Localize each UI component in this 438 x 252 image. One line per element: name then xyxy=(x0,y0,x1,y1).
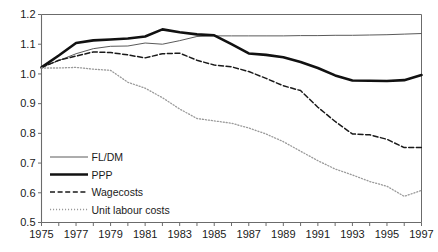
x-tick-label: 1983 xyxy=(167,228,191,240)
x-tick-label: 1985 xyxy=(202,228,226,240)
legend-label-fl-dm: FL/DM xyxy=(92,151,124,163)
series-line-wagecosts xyxy=(42,52,422,148)
x-tick-label: 1991 xyxy=(306,228,330,240)
x-tick-label: 1981 xyxy=(133,228,157,240)
x-tick-label: 1995 xyxy=(375,228,399,240)
x-tick-label: 1977 xyxy=(64,228,88,240)
y-tick-label: 1.2 xyxy=(20,8,35,20)
series-line-ppp xyxy=(42,29,422,81)
legend-label-wagecosts: Wagecosts xyxy=(92,186,144,198)
legend-label-ppp: PPP xyxy=(92,169,113,181)
x-tick-label: 1993 xyxy=(340,228,364,240)
series-line-fl-dm xyxy=(42,34,422,68)
x-tick-label: 1997 xyxy=(409,228,433,240)
y-tick-label: 1.0 xyxy=(20,68,35,80)
legend-label-unit-labour-costs: Unit labour costs xyxy=(92,204,170,216)
chart-legend: FL/DMPPPWagecostsUnit labour costs xyxy=(50,151,170,216)
y-tick-label: 0.6 xyxy=(20,187,35,199)
x-tick-label: 1979 xyxy=(98,228,122,240)
y-tick-label: 0.8 xyxy=(20,127,35,139)
chart-canvas: 0.50.60.70.80.91.01.11.2 197519771979198… xyxy=(0,0,438,252)
x-tick-label: 1989 xyxy=(271,228,295,240)
x-tick-label: 1975 xyxy=(29,228,53,240)
y-tick-label: 0.9 xyxy=(20,97,35,109)
line-chart: 0.50.60.70.80.91.01.11.2 197519771979198… xyxy=(0,0,438,252)
y-tick-label: 0.7 xyxy=(20,157,35,169)
y-axis-ticks: 0.50.60.70.80.91.01.11.2 xyxy=(20,8,41,228)
x-axis-ticks: 1975197719791981198319851987198919911993… xyxy=(29,223,433,241)
y-tick-label: 0.5 xyxy=(20,216,35,228)
x-tick-label: 1987 xyxy=(237,228,261,240)
y-tick-label: 1.1 xyxy=(20,38,35,50)
